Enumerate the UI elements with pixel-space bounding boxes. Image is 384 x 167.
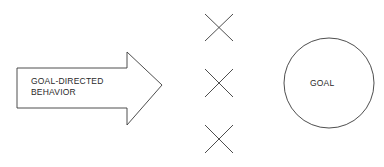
arrow-label: GOAL-DIRECTED BEHAVIOR [31, 76, 104, 98]
arrow-label-line1: GOAL-DIRECTED [31, 76, 104, 87]
goal-label: GOAL [310, 78, 334, 89]
barrier-x-middle [205, 69, 233, 97]
barrier-x-bottom [205, 125, 233, 153]
barrier-x-top [205, 14, 233, 41]
arrow-label-line2: BEHAVIOR [31, 87, 104, 98]
